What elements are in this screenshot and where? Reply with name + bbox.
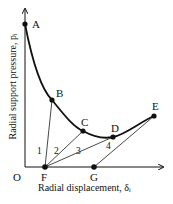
support-line-1-label: 1 [37, 146, 42, 156]
support-line-2-label: 2 [54, 146, 59, 156]
point-b-dot [49, 97, 54, 102]
support-line-4-label: 4 [106, 141, 111, 151]
point-a-label: A [32, 19, 40, 30]
point-c-dot [80, 128, 85, 133]
y-axis-label: Radial support pressure, pᵢ [7, 40, 18, 140]
point-e-dot [151, 113, 156, 118]
point-c-label: C [81, 117, 88, 128]
point-d-dot [110, 134, 115, 139]
origin-label: O [13, 172, 21, 183]
ground-reaction-diagram: A B C D E F G O 1 2 3 4 Radial support p… [0, 0, 173, 204]
point-e-label: E [152, 101, 159, 112]
x-axis-label: Radial displacement, δᵢ [38, 182, 131, 193]
point-g-dot [91, 164, 97, 170]
support-line-1 [45, 100, 52, 167]
ground-reaction-curve [25, 24, 154, 138]
point-f-dot [42, 164, 48, 170]
point-d-label: D [111, 123, 119, 134]
point-a-dot [22, 21, 27, 26]
point-b-label: B [56, 88, 63, 99]
support-line-3-label: 3 [76, 146, 81, 156]
diagram-graphics [0, 0, 173, 204]
